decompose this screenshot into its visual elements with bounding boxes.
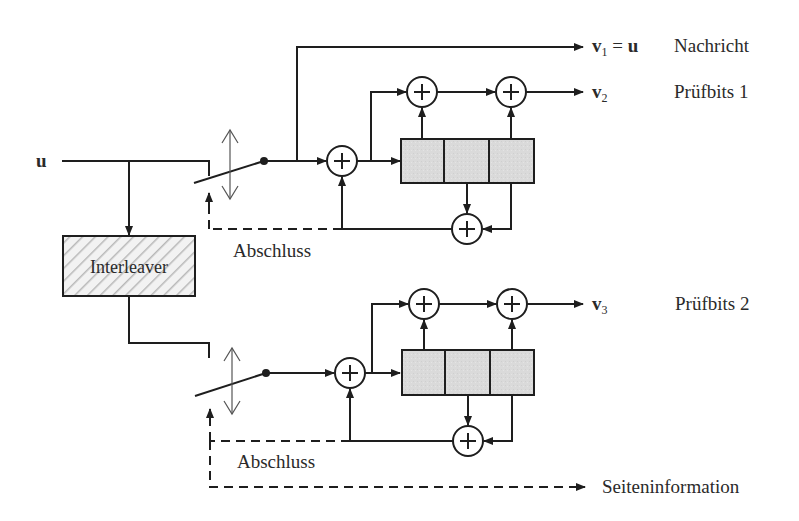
interleaver-output-line <box>129 296 209 358</box>
output-v2-label: v2 <box>592 81 608 105</box>
encoder-1 <box>194 47 583 244</box>
switch-1-toggle-arrow-icon <box>222 130 238 199</box>
termination-2-dashed <box>210 420 350 441</box>
shift-register-2 <box>402 350 534 395</box>
termination-label-top: Abschluss <box>233 240 311 261</box>
termination-1-dashed <box>209 205 342 229</box>
switch-1-blade <box>194 161 264 183</box>
input-path <box>62 161 209 235</box>
side-information-label: Seiteninformation <box>602 476 740 497</box>
interleaver-label: Interleaver <box>90 257 168 277</box>
switch-2-blade <box>195 373 266 396</box>
output-v1-label: v1 = u <box>592 35 639 59</box>
switch-2-toggle-arrow-icon <box>224 348 240 414</box>
output-v2-description: Prüfbits 1 <box>674 81 748 102</box>
termination-label-bottom: Abschluss <box>237 451 315 472</box>
shift-register-1 <box>401 139 534 183</box>
turbo-encoder-diagram: u Interleaver v1 = u Nachricht v2 Prüfbi… <box>0 0 799 521</box>
output-v3-label: v3 <box>592 293 608 317</box>
output-v3-description: Prüfbits 2 <box>675 293 749 314</box>
output-v1-description: Nachricht <box>674 35 750 56</box>
input-label: u <box>36 150 47 171</box>
